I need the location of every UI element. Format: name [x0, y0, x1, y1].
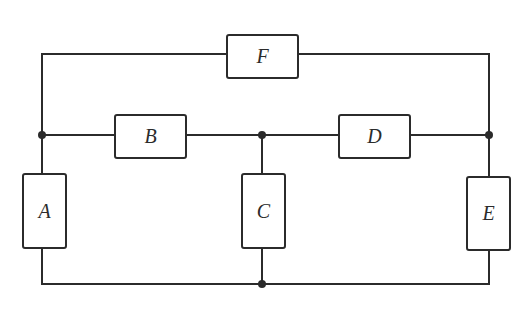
- label-c: C: [242, 201, 285, 221]
- junction-dot-right: [485, 131, 493, 139]
- wire-bottom-right: [262, 250, 489, 284]
- junction-dot-left: [38, 131, 46, 139]
- label-d: D: [339, 126, 410, 146]
- label-e: E: [467, 203, 510, 223]
- wire-bottom-left: [42, 248, 262, 284]
- label-a: A: [23, 201, 66, 221]
- label-f: F: [227, 46, 298, 66]
- junction-dot-center: [258, 131, 266, 139]
- label-b: B: [115, 126, 186, 146]
- junction-dot-bottom: [258, 280, 266, 288]
- circuit-diagram: F B D A C E: [0, 0, 522, 322]
